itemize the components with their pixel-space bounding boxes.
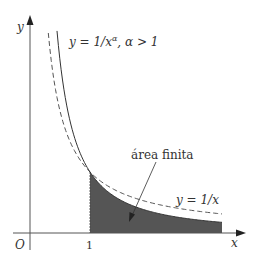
- diagram-canvas: y x O 1 y = 1/xα, α > 1 y = 1/x área fin…: [0, 0, 258, 269]
- power-curve-label: y = 1/xα, α > 1: [68, 34, 158, 49]
- y-axis-label: y: [16, 20, 24, 34]
- harmonic-curve: [48, 33, 222, 214]
- power-curve-label-main: y = 1/x: [68, 35, 112, 49]
- tick-label-1: 1: [86, 239, 93, 252]
- area-label: área finita: [131, 148, 194, 162]
- y-axis-arrow-icon: [27, 15, 34, 25]
- harmonic-curve-label: y = 1/x: [175, 193, 219, 207]
- power-curve-label-condition: , α > 1: [117, 35, 158, 49]
- origin-label: O: [15, 238, 25, 252]
- x-axis-label: x: [231, 236, 238, 250]
